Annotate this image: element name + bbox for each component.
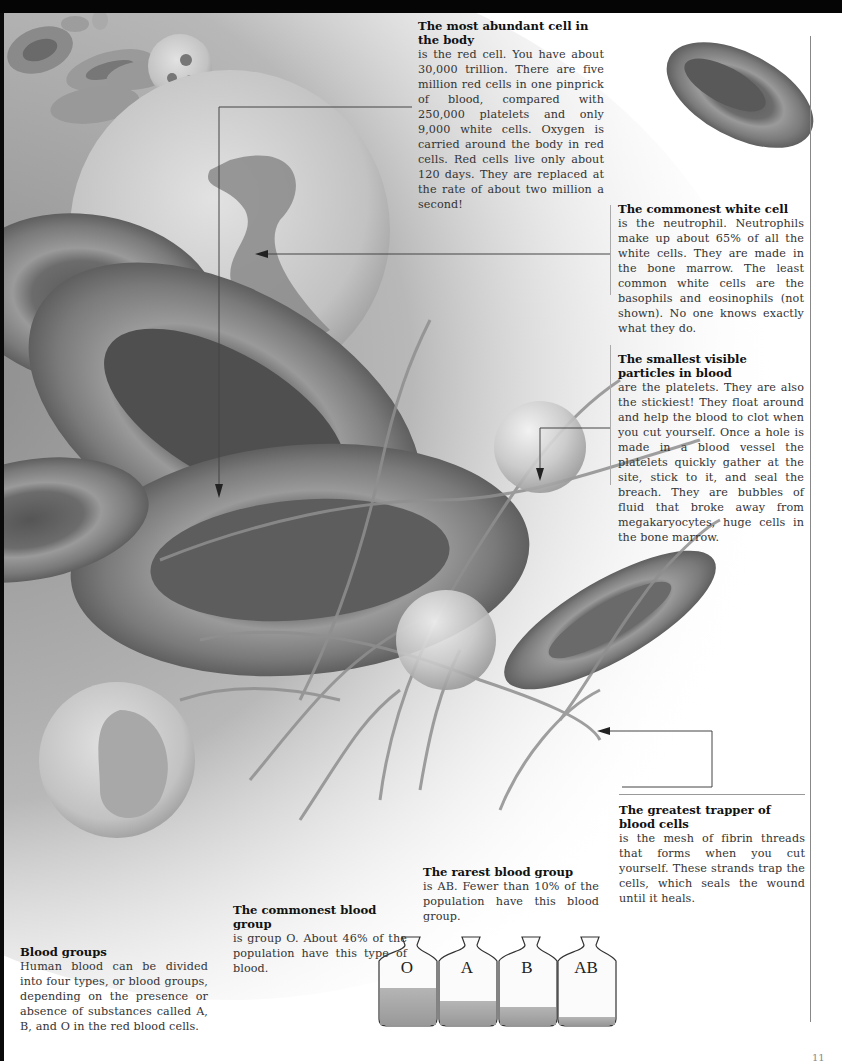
annotation-body: is AB. Fewer than 10% of the population …: [423, 879, 599, 924]
bottle-label-b: B: [521, 958, 532, 977]
bottle-label-a: A: [461, 958, 474, 977]
white-cell-rule: [610, 205, 611, 295]
blood-bottles: [379, 937, 616, 1026]
annotation-body: is the mesh of fibrin threads that forms…: [619, 831, 805, 906]
annotation-heading: The greatest trapper of blood cells: [619, 803, 805, 831]
annotation-heading: The smallest visible particles in blood: [618, 352, 804, 380]
annotation-body: is the red cell. You have about 30,000 t…: [418, 47, 604, 212]
annotation-body: are the platelets. They are also the sti…: [618, 380, 804, 545]
annotation-heading: The commonest white cell: [618, 202, 804, 216]
top-black-bar: [0, 0, 842, 13]
left-edge-strip: [0, 13, 4, 1061]
annotation-body: is the neutrophil. Neutrophils make up a…: [618, 216, 804, 336]
annotation-body: Human blood can be divided into four typ…: [20, 959, 208, 1034]
bottle-label-ab: AB: [574, 958, 598, 977]
annotation-greatest-trapper: The greatest trapper of blood cells is t…: [619, 794, 805, 906]
annotation-heading: The rarest blood group: [423, 865, 599, 879]
annotation-heading: The most abundant cell in the body: [418, 19, 604, 47]
page-number: 11: [812, 1052, 825, 1061]
annotation-white-cell: The commonest white cell is the neutroph…: [618, 202, 804, 336]
annotation-rarest-group: The rarest blood group is AB. Fewer than…: [423, 865, 599, 924]
annotation-heading: Blood groups: [20, 945, 208, 959]
annotation-commonest-group: The commonest blood group is group O. Ab…: [233, 903, 407, 976]
annotation-body: is group O. About 46% of the population …: [233, 931, 407, 976]
annotation-heading: The commonest blood group: [233, 903, 407, 931]
page-right-rule: [810, 36, 811, 1022]
platelets-rule: [610, 345, 611, 485]
annotation-smallest-particles: The smallest visible particles in blood …: [618, 352, 804, 545]
annotation-blood-groups: Blood groups Human blood can be divided …: [20, 945, 208, 1034]
annotation-abundant-cell: The most abundant cell in the body is th…: [418, 19, 604, 212]
